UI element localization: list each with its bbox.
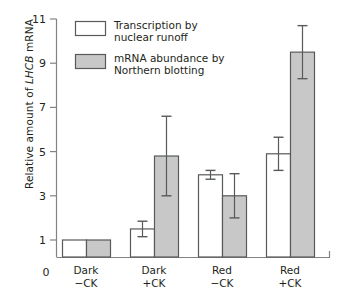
x-category-label: Dark xyxy=(142,264,168,276)
x-category-label: −CK xyxy=(210,277,234,289)
y-tick-label: 9 xyxy=(39,57,46,70)
y-axis-label-gene: LHCB xyxy=(23,55,35,84)
legend-label-transcription-line2: nuclear runoff xyxy=(114,31,189,43)
y-tick-label: 1 xyxy=(39,234,46,247)
x-category-label: −CK xyxy=(74,277,98,289)
x-category-label: +CK xyxy=(142,277,166,289)
bars-group xyxy=(63,52,315,257)
y-tick-group: 1357911 xyxy=(32,13,57,247)
bar xyxy=(199,175,223,257)
legend-label-transcription-line1: Transcription by xyxy=(113,19,198,31)
bar-chart-plot: 1357911 Dark−CKDark+CKRed−CKRed+CK 0 Tra… xyxy=(0,0,343,299)
legend: Transcription by nuclear runoff mRNA abu… xyxy=(76,19,225,76)
legend-label-mrna-abundance-line1: mRNA abundance by xyxy=(114,52,225,64)
bar xyxy=(63,240,87,257)
category-labels-group: Dark−CKDark+CKRed−CKRed+CK xyxy=(74,264,303,289)
y-tick-label: 3 xyxy=(39,190,46,203)
bar xyxy=(291,52,315,257)
x-category-label: Red xyxy=(212,264,232,276)
x-category-label: Dark xyxy=(74,264,100,276)
y-axis-origin-label: 0 xyxy=(43,266,50,279)
legend-swatch-transcription xyxy=(76,22,106,36)
y-tick-label: 7 xyxy=(39,101,46,114)
y-tick-label: 5 xyxy=(39,146,46,159)
legend-swatch-mrna-abundance xyxy=(76,55,106,69)
legend-label-mrna-abundance-line2: Northern blotting xyxy=(114,64,204,76)
y-axis-label-suffix: mRNA xyxy=(23,19,35,55)
y-axis-label: Relative amount of LHCB mRNA xyxy=(23,9,35,199)
bar xyxy=(87,240,111,257)
x-category-label: +CK xyxy=(278,277,302,289)
y-axis-label-prefix: Relative amount of xyxy=(23,84,35,189)
x-category-label: Red xyxy=(280,264,300,276)
chart-figure: Relative amount of LHCB mRNA 1357911 Dar… xyxy=(0,0,343,299)
